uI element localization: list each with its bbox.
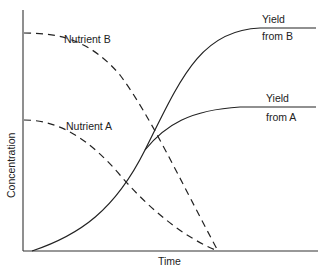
label-yield-b-line2: from B [262, 30, 293, 42]
nutrient-a-curve [24, 120, 218, 251]
nutrient-b-curve [24, 33, 218, 251]
label-yield-a-line1: Yield [266, 92, 289, 104]
x-axis-label: Time [158, 255, 181, 267]
chart: Nutrient B Nutrient A Yield from B Yield… [0, 0, 324, 270]
label-nutrient-b: Nutrient B [64, 33, 111, 45]
y-axis-label: Concentration [5, 132, 17, 198]
label-nutrient-a: Nutrient A [66, 120, 112, 132]
yield-b-curve [32, 28, 316, 251]
label-yield-a-line2: from A [266, 111, 296, 123]
label-yield-b-line1: Yield [262, 13, 285, 25]
